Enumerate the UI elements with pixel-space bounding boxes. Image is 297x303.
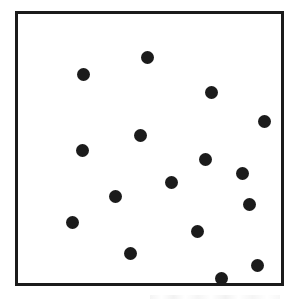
data-point (243, 198, 256, 211)
data-point (191, 225, 204, 238)
scatter-figure (0, 0, 297, 303)
data-point (77, 68, 90, 81)
data-point (236, 167, 249, 180)
data-point (109, 190, 122, 203)
data-point (165, 176, 178, 189)
data-point (205, 86, 218, 99)
data-point (124, 247, 137, 260)
data-point (141, 51, 154, 64)
data-point (258, 115, 271, 128)
data-point (215, 272, 228, 285)
scan-noise-artifact (150, 295, 280, 299)
data-point (199, 153, 212, 166)
data-point (134, 129, 147, 142)
data-point (76, 144, 89, 157)
data-point (251, 259, 264, 272)
plot-frame (15, 11, 284, 286)
data-point (66, 216, 79, 229)
